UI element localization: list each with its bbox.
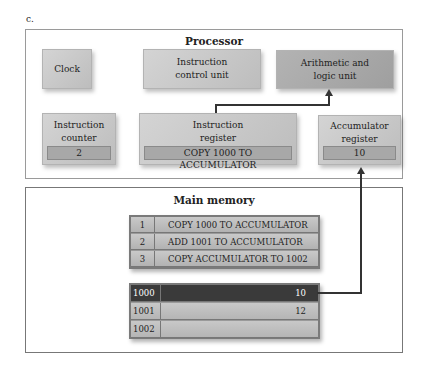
program-block: 1 COPY 1000 TO ACCUMULATOR 2 ADD 1001 TO… bbox=[129, 215, 320, 269]
accumulator-register-value: 10 bbox=[323, 146, 396, 160]
data-row: 1000 10 bbox=[131, 285, 318, 302]
alu-box: Arithmetic and logic unit bbox=[276, 50, 394, 89]
instruction-register-value: COPY 1000 TO ACCUMULATOR bbox=[144, 146, 292, 160]
main-memory-title: Main memory bbox=[26, 194, 402, 206]
instruction-counter-value: 2 bbox=[47, 146, 111, 160]
instruction-control-unit-box: Instruction control unit bbox=[143, 49, 261, 89]
arrow-memory-to-accumulator bbox=[317, 292, 362, 294]
data-row: 1001 12 bbox=[131, 303, 318, 320]
processor-title: Processor bbox=[26, 35, 402, 47]
data-row: 1002 bbox=[131, 321, 318, 338]
arrowhead-icon bbox=[325, 89, 333, 96]
program-row: 2 ADD 1001 TO ACCUMULATOR bbox=[131, 234, 318, 250]
instruction-register-box: Instruction register COPY 1000 TO ACCUMU… bbox=[139, 113, 297, 165]
clock-box: Clock bbox=[42, 49, 92, 89]
data-block: 1000 10 1001 12 1002 bbox=[129, 283, 320, 339]
program-row: 1 COPY 1000 TO ACCUMULATOR bbox=[131, 217, 318, 233]
instruction-counter-box: Instruction counter 2 bbox=[42, 113, 116, 165]
program-row: 3 COPY ACCUMULATOR TO 1002 bbox=[131, 251, 318, 267]
arrowhead-icon bbox=[357, 167, 365, 174]
figure-label: c. bbox=[26, 14, 34, 24]
accumulator-register-box: Accumulator register 10 bbox=[318, 115, 401, 165]
